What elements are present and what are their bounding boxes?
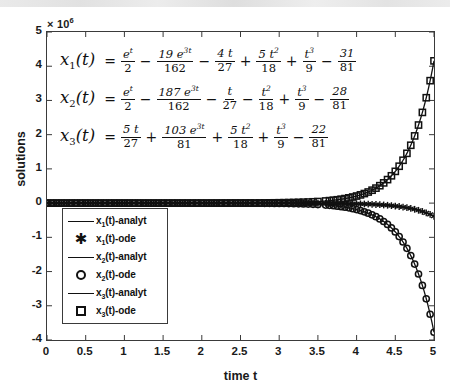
equation-equals: = xyxy=(104,53,116,69)
y-tick-label: 5 xyxy=(16,25,42,37)
equation-fraction: 19 e3t162 xyxy=(157,47,194,74)
equation-operator: + xyxy=(146,129,158,145)
equation-operator: − xyxy=(198,53,210,69)
equation-1: x1(t)=et2−19 e3t162−4 t27+5 t218+t39−318… xyxy=(60,42,410,80)
equation-fraction: t39 xyxy=(303,47,316,74)
equation-fraction: 5 t27 xyxy=(121,124,141,149)
equation-fraction: 3181 xyxy=(338,48,357,73)
x-tick-label: 4 xyxy=(352,346,358,358)
fraction-denominator: 2 xyxy=(124,62,131,74)
y-axis-title: solutions xyxy=(14,114,28,204)
legend-item-label: x2(t)-ode xyxy=(96,269,136,282)
equation-operator: + xyxy=(258,129,270,145)
legend-item[interactable]: ✱x1(t)-ode xyxy=(66,230,163,248)
fraction-denominator: 18 xyxy=(233,138,248,150)
y-tick-label: -4 xyxy=(16,333,42,345)
equation-fraction: 5 t218 xyxy=(256,47,280,74)
y-axis-multiplier-base: × 10 xyxy=(47,18,70,30)
equation-equals: = xyxy=(104,129,116,145)
fraction-denominator: 27 xyxy=(123,138,138,150)
equation-lhs: x3(t) xyxy=(60,126,95,147)
equation-operator: − xyxy=(140,53,152,69)
legend-item[interactable]: x1(t)-analyt xyxy=(66,212,163,230)
equation-equals: = xyxy=(104,91,116,107)
legend-item-label: x2(t)-analyt xyxy=(96,251,147,264)
equation-operator: − xyxy=(314,91,326,107)
fraction-denominator: 27 xyxy=(218,62,233,74)
y-tick-label: -2 xyxy=(16,265,42,277)
equation-fraction: et2 xyxy=(121,47,135,74)
equation-operator: − xyxy=(293,129,305,145)
equation-fraction: 2881 xyxy=(330,86,349,111)
y-tick-label: -1 xyxy=(16,230,42,242)
legend-item-label: x1(t)-ode xyxy=(96,233,136,246)
x-tick-label: 3 xyxy=(275,346,281,358)
legend-line-icon xyxy=(66,249,96,265)
y-axis-multiplier: × 106 xyxy=(47,16,74,30)
legend-circle-icon xyxy=(66,267,96,283)
fraction-denominator: 9 xyxy=(277,138,284,150)
legend-square-icon xyxy=(66,303,96,319)
legend-line-icon xyxy=(66,285,96,301)
legend-item[interactable]: x2(t)-analyt xyxy=(66,248,163,266)
x-tick-label: 3.5 xyxy=(309,346,325,358)
equation-operator: + xyxy=(278,91,290,107)
legend-item[interactable]: x3(t)-ode xyxy=(66,302,163,320)
legend-box: x1(t)-analyt✱x1(t)-odex2(t)-analytx2(t)-… xyxy=(62,208,168,324)
equation-lhs: x1(t) xyxy=(60,50,95,71)
equation-operator: − xyxy=(242,91,254,107)
x-tick-label: 1.5 xyxy=(154,346,170,358)
y-axis-multiplier-exponent: 6 xyxy=(70,16,74,25)
equation-fraction: t39 xyxy=(274,123,287,150)
fraction-denominator: 2 xyxy=(124,100,131,112)
equation-2: x2(t)=et2−187 e3t162−t27−t218+t39−2881 xyxy=(60,80,410,118)
equation-fraction: 103 e3t81 xyxy=(162,123,206,150)
y-tick-label: -3 xyxy=(16,299,42,311)
equation-operator: + xyxy=(211,129,223,145)
scan-artifact-band xyxy=(0,0,450,7)
equation-fraction: 2281 xyxy=(309,124,328,149)
x-tick-label: 2.5 xyxy=(232,346,248,358)
fraction-denominator: 81 xyxy=(332,100,347,112)
equation-fraction: t218 xyxy=(259,85,274,112)
equation-operator: − xyxy=(140,91,152,107)
equation-operator: − xyxy=(206,91,218,107)
x-tick-label: 0 xyxy=(43,346,49,358)
y-tick-label: 3 xyxy=(16,93,42,105)
legend-line-icon xyxy=(66,213,96,229)
fraction-denominator: 81 xyxy=(311,138,326,150)
legend-item-label: x1(t)-analyt xyxy=(96,215,147,228)
y-tick-label: 4 xyxy=(16,59,42,71)
x-tick-label: 2 xyxy=(198,346,204,358)
x-tick-label: 5 xyxy=(430,346,436,358)
legend-item-label: x3(t)-ode xyxy=(96,305,136,318)
equation-annotations: x1(t)=et2−19 e3t162−4 t27+5 t218+t39−318… xyxy=(60,42,410,156)
equation-3: x3(t)=5 t27+103 e3t81+5 t218+t39−2281 xyxy=(60,118,410,156)
fraction-denominator: 27 xyxy=(222,100,237,112)
figure-root: × 106 543210-1-2-3-4 00.511.522.533.544.… xyxy=(0,0,450,392)
legend-item-label: x3(t)-analyt xyxy=(96,287,147,300)
fraction-denominator: 162 xyxy=(168,100,190,112)
equation-fraction: 4 t27 xyxy=(215,48,235,73)
equation-fraction: et2 xyxy=(121,85,135,112)
legend-asterisk-icon: ✱ xyxy=(66,231,96,247)
fraction-denominator: 81 xyxy=(177,138,192,150)
fraction-denominator: 9 xyxy=(298,100,305,112)
fraction-denominator: 18 xyxy=(259,100,274,112)
fraction-denominator: 9 xyxy=(306,62,313,74)
equation-fraction: 187 e3t162 xyxy=(157,85,201,112)
equation-fraction: t39 xyxy=(295,85,308,112)
equation-operator: + xyxy=(240,53,252,69)
equation-operator: − xyxy=(321,53,333,69)
x-tick-label: 4.5 xyxy=(386,346,402,358)
equation-fraction: t27 xyxy=(222,86,237,111)
legend-item[interactable]: x2(t)-ode xyxy=(66,266,163,284)
x-axis-tick-labels: 00.511.522.533.544.55 xyxy=(46,346,435,362)
fraction-denominator: 81 xyxy=(340,62,355,74)
x-axis-title: time t xyxy=(46,369,435,383)
fraction-denominator: 18 xyxy=(261,62,276,74)
x-tick-label: 1 xyxy=(120,346,126,358)
equation-lhs: x2(t) xyxy=(60,88,95,109)
equation-fraction: 5 t218 xyxy=(228,123,252,150)
legend-item[interactable]: x3(t)-analyt xyxy=(66,284,163,302)
